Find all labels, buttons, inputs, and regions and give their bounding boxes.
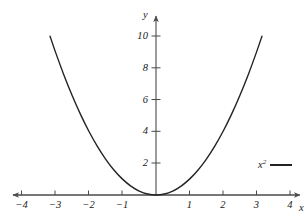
x-axis-label: x [299, 203, 304, 214]
x-tick-label-1: 1 [187, 200, 192, 211]
legend-line-swatch [270, 164, 292, 166]
y-tick-label-6: 6 [143, 94, 148, 105]
y-tick-label-8: 8 [143, 63, 148, 74]
legend: x2 [258, 160, 292, 171]
x-tick-label--4: −4 [15, 200, 28, 211]
y-tick-label-10: 10 [137, 31, 148, 42]
x-tick-label--1: −1 [116, 200, 129, 211]
x-tick-label-3: 3 [254, 200, 259, 211]
x-tick-label-4: 4 [287, 200, 292, 211]
x-tick-label--3: −3 [49, 200, 62, 211]
legend-label-x-squared: x2 [258, 160, 266, 171]
legend-label-exponent: 2 [263, 158, 267, 166]
plot-canvas [0, 0, 308, 221]
y-tick-label-4: 4 [143, 126, 148, 137]
x-tick-label-2: 2 [220, 200, 225, 211]
x-tick-label--2: −2 [82, 200, 95, 211]
y-tick-label-2: 2 [143, 158, 148, 169]
parabola-figure: −4 −3 −2 −1 1 2 3 4 10 8 6 4 2 x y x2 [0, 0, 308, 221]
y-axis-label: y [143, 10, 148, 21]
